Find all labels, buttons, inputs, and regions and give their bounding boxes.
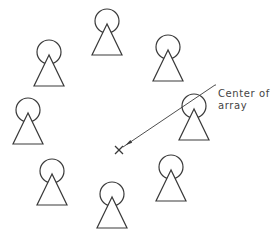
annotation-line-1: Center of bbox=[218, 88, 270, 99]
array-symbol-bottom-left bbox=[37, 159, 67, 205]
triangle-icon bbox=[179, 109, 209, 140]
center-marker-icon bbox=[115, 146, 123, 154]
array-symbol-right bbox=[179, 94, 209, 140]
triangle-icon bbox=[97, 197, 127, 228]
triangle-icon bbox=[34, 55, 64, 86]
array-symbol-top-left bbox=[34, 40, 64, 86]
arrowhead-icon bbox=[125, 140, 132, 145]
triangle-icon bbox=[13, 113, 43, 144]
array-symbol-top-right bbox=[153, 35, 183, 81]
array-symbol-top bbox=[92, 9, 122, 55]
symbol-group bbox=[13, 9, 209, 228]
array-symbol-left bbox=[13, 98, 43, 144]
array-symbol-bottom-right bbox=[156, 155, 186, 201]
triangle-icon bbox=[37, 174, 67, 205]
triangle-icon bbox=[153, 50, 183, 81]
array-symbol-bottom bbox=[97, 182, 127, 228]
diagram-canvas: Center of array bbox=[0, 0, 274, 241]
annotation-line-2: array bbox=[218, 100, 247, 111]
triangle-icon bbox=[92, 24, 122, 55]
triangle-icon bbox=[156, 170, 186, 201]
